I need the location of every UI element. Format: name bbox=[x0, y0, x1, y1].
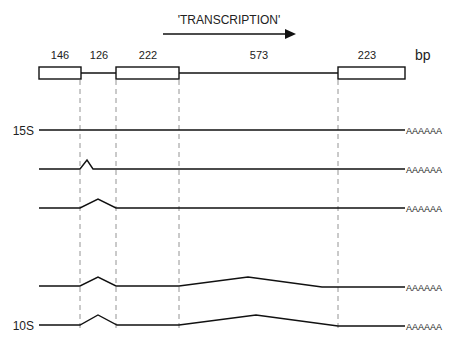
splicing-diagram: 'TRANSCRIPTION' 146 126 222 573 223 bp 1… bbox=[0, 0, 461, 355]
polya-tail-3: AAAAAA bbox=[406, 204, 442, 214]
segment-label-4: 573 bbox=[250, 49, 268, 61]
exon-3 bbox=[338, 67, 405, 79]
transcript-5 bbox=[39, 315, 405, 326]
unit-label: bp bbox=[415, 47, 431, 63]
exon-1 bbox=[39, 67, 81, 79]
transcripts bbox=[39, 130, 405, 326]
transcription-label: 'TRANSCRIPTION' bbox=[178, 13, 281, 27]
gene-structure bbox=[39, 67, 405, 79]
transcript-2 bbox=[39, 160, 405, 169]
polya-tail-4: AAAAAA bbox=[406, 283, 442, 293]
dashed-guides bbox=[80, 80, 338, 330]
segment-label-2: 126 bbox=[90, 49, 108, 61]
exon-2 bbox=[116, 67, 179, 79]
segment-label-3: 222 bbox=[139, 49, 157, 61]
polya-tail-1: AAAAAA bbox=[406, 126, 442, 136]
segment-label-1: 146 bbox=[51, 49, 69, 61]
polya-tail-2: AAAAAA bbox=[406, 165, 442, 175]
transcript-3 bbox=[39, 199, 405, 208]
polya-tail-5: AAAAAA bbox=[406, 322, 442, 332]
transcription-arrow bbox=[163, 29, 296, 39]
row-label-15s: 15S bbox=[13, 124, 34, 138]
row-label-10s: 10S bbox=[13, 319, 34, 333]
segment-label-5: 223 bbox=[358, 49, 376, 61]
transcript-4 bbox=[39, 277, 405, 287]
